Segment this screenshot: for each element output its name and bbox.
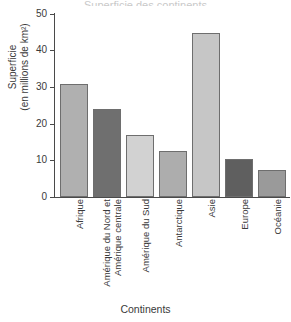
y-tick-0 bbox=[50, 197, 55, 198]
y-axis-title-unit: (en millions de km²) bbox=[19, 23, 30, 110]
x-tick-label-amerique-nord: Amérique du Nord et Amérique centrale bbox=[102, 199, 123, 287]
y-tick-label-10: 10 bbox=[7, 155, 47, 165]
y-axis-title: Superficie(en millions de km²) bbox=[7, 0, 31, 142]
bar-afrique bbox=[60, 84, 88, 197]
bar-asie bbox=[192, 33, 220, 197]
x-axis-line bbox=[54, 197, 290, 198]
bar-oceanie bbox=[258, 170, 286, 197]
bar-antarctique bbox=[159, 151, 187, 197]
clipped-chart-title: Superficie des continents bbox=[0, 0, 291, 6]
x-tick-label-amerique-sud: Amérique du Sud bbox=[141, 199, 152, 272]
x-tick-label-asie: Asie bbox=[207, 199, 218, 217]
bar-amerique-nord bbox=[93, 109, 121, 197]
x-tick-label-afrique: Afrique bbox=[75, 199, 86, 229]
x-axis-title: Continents bbox=[0, 303, 291, 315]
bar-europe bbox=[225, 159, 253, 197]
plot-area bbox=[55, 14, 290, 197]
bar-chart-figure: Superficie des continents 0 10 20 30 40 … bbox=[0, 0, 291, 322]
x-tick-label-oceanie: Océanie bbox=[273, 199, 284, 234]
x-tick-labels: Afrique Amérique du Nord et Amérique cen… bbox=[55, 199, 290, 299]
y-axis-title-text: Superficie bbox=[7, 45, 18, 89]
x-tick-label-antarctique: Antarctique bbox=[174, 199, 185, 247]
y-tick-label-0: 0 bbox=[7, 192, 47, 202]
x-tick-label-europe: Europe bbox=[240, 199, 251, 230]
bar-amerique-sud bbox=[126, 135, 154, 197]
